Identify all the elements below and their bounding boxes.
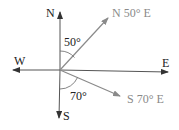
south-axis (59, 70, 60, 118)
east-label: E (162, 56, 169, 70)
compass-diagram: N S W E 50° 70° N 50° E S 70° E (0, 0, 179, 130)
north-label: N (46, 6, 55, 20)
bearing-s70e-line (60, 70, 120, 96)
east-axis (60, 70, 168, 72)
angle-arc-70 (60, 78, 78, 90)
bearing-n50e-label: N 50° E (112, 6, 151, 20)
west-label: W (14, 54, 26, 68)
south-label: S (63, 109, 70, 123)
bearing-s70e-label: S 70° E (127, 92, 164, 106)
angle-label-70: 70° (70, 89, 87, 103)
angle-label-50: 50° (64, 35, 81, 49)
